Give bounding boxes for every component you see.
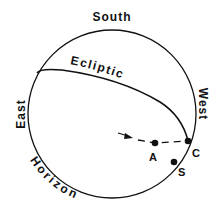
point-a-label: A <box>149 151 157 163</box>
point-c-dot <box>185 138 192 145</box>
dashed-path <box>138 140 188 143</box>
point-a-dot <box>152 140 159 147</box>
south-label: South <box>93 10 132 24</box>
east-label: East <box>14 99 28 128</box>
point-s-label: S <box>178 166 185 178</box>
point-c-label: C <box>192 147 200 159</box>
point-s-dot <box>171 159 178 166</box>
west-label: West <box>196 88 210 120</box>
horizon-label: Horizon <box>27 154 81 202</box>
sky-diagram: A C S South East West Ecliptic Horizon <box>0 0 223 213</box>
ecliptic-curve <box>37 69 188 141</box>
arrow-head-icon <box>124 133 133 139</box>
